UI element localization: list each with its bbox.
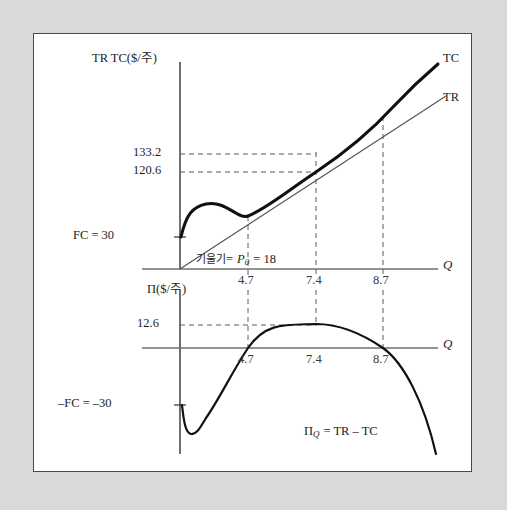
figure-page: TR TC($/주) TC TR 133.2 120.6 FC = 30 기울기… xyxy=(0,0,507,510)
tr-curve-label: TR xyxy=(443,91,459,104)
neg-fixed-cost-label: –FC = –30 xyxy=(58,397,112,410)
profit-formula-symbol: Π xyxy=(304,424,313,438)
slope-value: = 18 xyxy=(253,252,276,266)
tc-curve xyxy=(181,64,438,237)
profit-formula-subscript: Q xyxy=(313,429,320,439)
top-y-axis-title: TR TC($/주) xyxy=(92,52,157,65)
x-tick-47-top: 4.7 xyxy=(238,274,254,287)
x-tick-74-bottom: 7.4 xyxy=(306,353,322,366)
x-tick-47-bottom: 4.7 xyxy=(238,353,254,366)
tr-line xyxy=(180,96,446,269)
y-tick-120: 120.6 xyxy=(133,164,161,177)
x-tick-74-top: 7.4 xyxy=(306,274,322,287)
figure-frame: TR TC($/주) TC TR 133.2 120.6 FC = 30 기울기… xyxy=(33,33,472,472)
y-tick-133: 133.2 xyxy=(133,146,161,159)
slope-symbol: P xyxy=(237,252,245,266)
x-tick-87-top: 8.7 xyxy=(373,274,389,287)
y-tick-126: 12.6 xyxy=(137,317,159,330)
top-x-axis-title: Q xyxy=(443,258,452,271)
slope-label-equals: = xyxy=(226,252,233,266)
slope-subscript: 0 xyxy=(245,257,250,267)
profit-formula-rest: = TR – TC xyxy=(324,424,378,438)
profit-formula: ΠQ = TR – TC xyxy=(304,422,378,439)
slope-label-korean: 기울기 xyxy=(196,253,226,266)
slope-label: 기울기= P0 = 18 xyxy=(196,250,276,267)
tc-curve-label: TC xyxy=(443,52,459,65)
fixed-cost-label: FC = 30 xyxy=(73,229,114,242)
x-tick-87-bottom: 8.7 xyxy=(373,353,389,366)
bottom-x-axis-title: Q xyxy=(443,337,452,350)
bottom-y-axis-title: Π($/주) xyxy=(147,283,186,296)
